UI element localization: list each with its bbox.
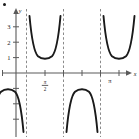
x-axis-label: x	[133, 71, 137, 77]
y-tick-label-3: 3	[7, 23, 10, 30]
curve-branch-upper-left	[30, 16, 61, 59]
graph-canvas: y x 1 2 3 π 2 π	[0, 0, 139, 139]
curve-branch-upper-right	[104, 16, 135, 59]
x-tick-label-pi: π	[108, 77, 112, 84]
y-tick-label-1: 1	[7, 54, 10, 61]
pi-over-2-numerator: π	[44, 79, 47, 85]
x-axis-arrowhead	[126, 70, 132, 75]
secant-function-figure: y x 1 2 3 π 2 π	[0, 0, 139, 139]
y-axis-label: y	[18, 8, 22, 14]
x-tick-label-pi-over-2: π 2	[42, 79, 48, 92]
y-tick-label-2: 2	[7, 39, 10, 46]
curve-branch-lower-left	[0, 89, 24, 132]
secant-curve-group	[0, 16, 135, 132]
pi-over-2-denominator: 2	[44, 86, 47, 92]
curve-branch-lower-right	[67, 89, 98, 132]
